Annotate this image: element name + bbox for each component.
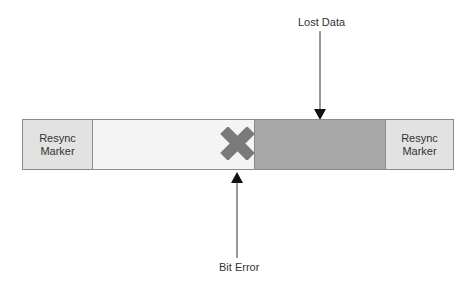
bit-error-arrow — [0, 0, 476, 285]
bit-error-label: Bit Error — [219, 261, 259, 273]
